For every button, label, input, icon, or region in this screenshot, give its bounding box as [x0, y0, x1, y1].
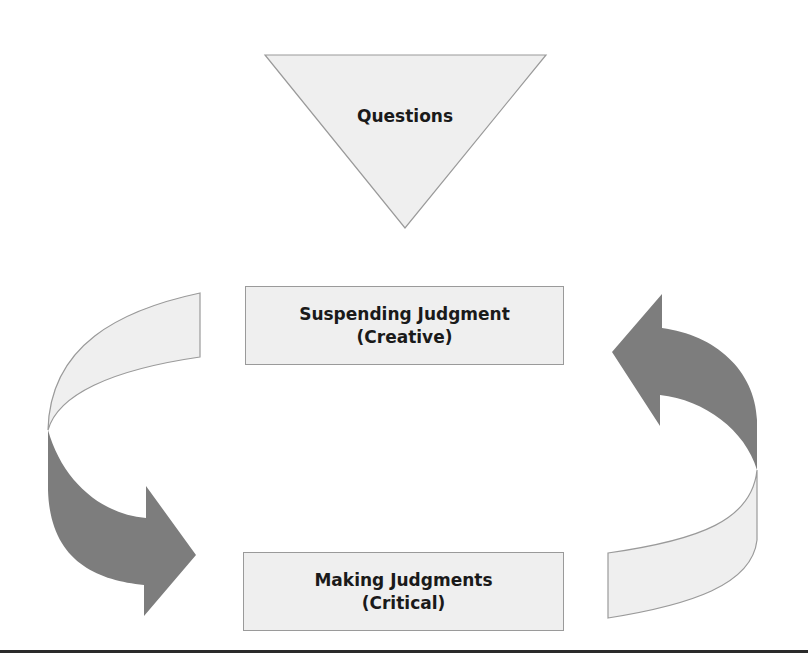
suspending-judgment-subtitle: (Creative) — [357, 326, 453, 349]
right-arrow-light-band — [608, 470, 757, 618]
questions-triangle — [265, 55, 546, 228]
bottom-divider — [0, 650, 808, 653]
suspending-judgment-box: Suspending Judgment (Creative) — [245, 286, 564, 365]
left-arrow-light-band — [48, 293, 200, 430]
questions-label: Questions — [330, 105, 480, 128]
making-judgments-box: Making Judgments (Critical) — [243, 552, 564, 631]
left-arrow-dark-band — [48, 430, 196, 616]
suspending-judgment-title: Suspending Judgment — [299, 303, 510, 326]
making-judgments-subtitle: (Critical) — [362, 592, 446, 615]
right-arrow-dark-band — [612, 294, 757, 470]
making-judgments-title: Making Judgments — [314, 569, 492, 592]
